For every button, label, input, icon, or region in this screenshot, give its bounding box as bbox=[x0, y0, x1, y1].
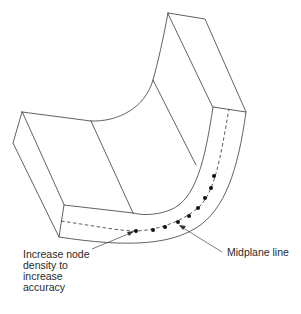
midplane-label: Midplane line bbox=[227, 247, 289, 258]
surface-ruling-right bbox=[153, 80, 196, 165]
midplane-line bbox=[61, 109, 229, 231]
inner-curve bbox=[91, 13, 168, 121]
node-density-label: Increase node density to increase accura… bbox=[23, 249, 90, 293]
leader-midplane bbox=[179, 225, 222, 252]
surface-ruling-left bbox=[91, 121, 133, 213]
node-markers bbox=[134, 174, 216, 233]
diagram-canvas: Increase node density to increase accura… bbox=[0, 0, 301, 314]
right-block bbox=[59, 13, 246, 243]
leader-node-density bbox=[92, 231, 134, 249]
